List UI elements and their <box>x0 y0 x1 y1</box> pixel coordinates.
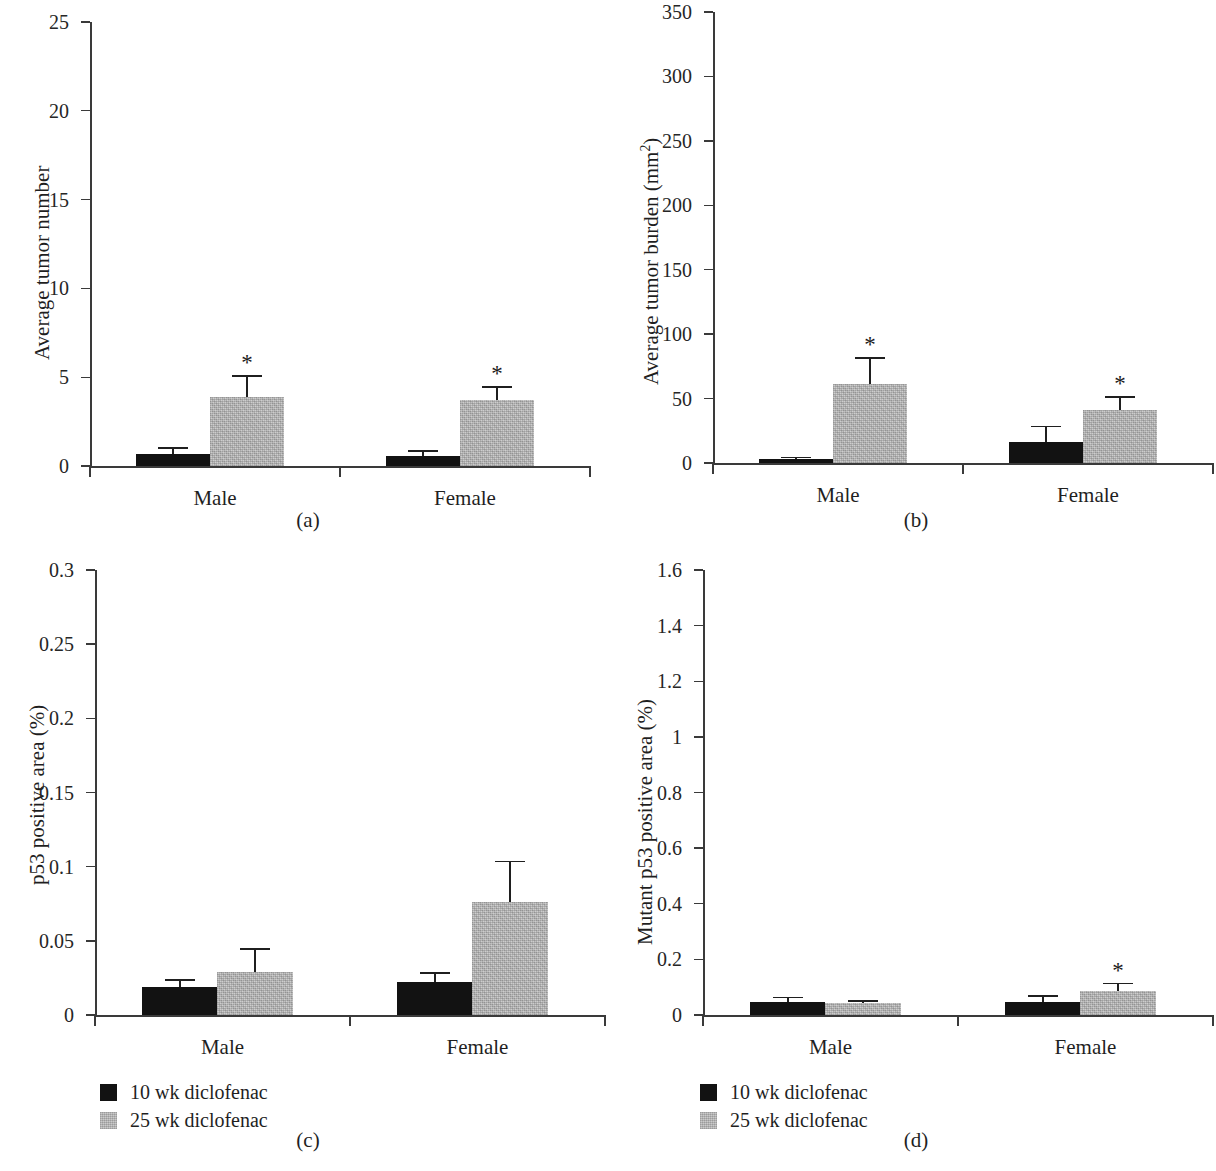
y-tick <box>694 959 703 960</box>
y-tick <box>694 792 703 793</box>
y-tick-label: 1 <box>612 727 682 747</box>
panel-b-plot-area: 050100150200250300350*Male*Female <box>713 12 1213 463</box>
y-tick <box>694 736 703 737</box>
error-bar-stem <box>246 375 248 396</box>
error-bar-cap <box>408 450 438 452</box>
panel-b: Average tumor burden (mm2) 0501001502002… <box>608 0 1216 545</box>
bar-male-10wk <box>759 459 833 463</box>
error-bar-cap <box>495 861 525 863</box>
error-bar-cap <box>781 457 811 459</box>
bar-male-10wk <box>142 987 217 1015</box>
y-tick <box>81 199 90 200</box>
error-bar-female-25wk <box>460 386 534 400</box>
legend-swatch-25wk <box>700 1112 717 1129</box>
y-tick-label: 15 <box>5 190 69 210</box>
legend-swatch-25wk <box>100 1112 117 1129</box>
legend-item-25wk: 25 wk diclofenac <box>700 1106 868 1134</box>
x-tick <box>957 1015 958 1026</box>
bar-female-25wk <box>1080 991 1155 1015</box>
error-bar-male-25wk <box>833 357 907 384</box>
y-tick <box>694 903 703 904</box>
bar-female-25wk <box>1083 410 1157 463</box>
bar-female-10wk <box>1005 1002 1080 1015</box>
error-bar-male-25wk <box>210 375 284 396</box>
b-y-axis-line <box>713 12 715 464</box>
legend-item-10wk: 10 wk diclofenac <box>700 1078 868 1106</box>
error-bar-male-10wk <box>759 457 833 460</box>
error-bar-cap <box>240 948 270 950</box>
y-tick <box>694 569 703 570</box>
y-tick <box>81 21 90 22</box>
bar-female-10wk <box>397 982 472 1015</box>
legend-label-10wk: 10 wk diclofenac <box>130 1081 268 1104</box>
error-bar-female-10wk <box>1005 995 1080 1001</box>
panel-d-plot-area: 00.20.40.60.811.21.41.6Male*Female <box>703 570 1213 1015</box>
legend-swatch-10wk <box>700 1084 717 1101</box>
error-bar-cap <box>1103 983 1133 985</box>
y-tick-label: 0.1 <box>0 857 74 877</box>
error-bar-cap <box>1105 396 1135 398</box>
panel-a: Average tumor number 0510152025*Male*Fem… <box>0 0 608 545</box>
x-tick <box>349 1015 350 1026</box>
error-bar-cap <box>232 375 262 377</box>
y-tick-label: 25 <box>5 12 69 32</box>
legend-label-10wk: 10 wk diclofenac <box>730 1081 868 1104</box>
bar-male-10wk <box>750 1002 825 1015</box>
significance-star: * <box>1080 959 1155 982</box>
y-tick-label: 250 <box>620 131 692 151</box>
x-tick <box>94 1015 95 1026</box>
y-tick <box>694 625 703 626</box>
error-bar-cap <box>158 447 188 449</box>
error-bar-cap <box>482 386 512 388</box>
y-tick <box>704 398 713 399</box>
y-tick-label: 0 <box>5 456 69 476</box>
c-legend: 10 wk diclofenac25 wk diclofenac <box>100 1078 268 1134</box>
error-bar-stem <box>496 386 498 400</box>
bar-female-10wk <box>1009 442 1083 463</box>
bar-male-10wk <box>136 454 210 466</box>
a-y-axis-line <box>90 22 92 467</box>
y-tick <box>704 11 713 12</box>
y-tick <box>81 110 90 111</box>
y-tick-label: 50 <box>620 389 692 409</box>
error-bar-female-25wk <box>1083 396 1157 410</box>
panel-c-plot-area: 00.050.10.150.20.250.3MaleFemale <box>95 570 605 1015</box>
y-tick <box>704 269 713 270</box>
x-tick <box>712 463 713 474</box>
y-tick <box>694 847 703 848</box>
x-tick <box>604 1015 605 1026</box>
y-tick-label: 0.25 <box>0 634 74 654</box>
error-bar-female-25wk <box>472 861 547 903</box>
y-tick-label: 1.4 <box>612 616 682 636</box>
error-bar-male-25wk <box>825 1000 900 1003</box>
x-category-label-female: Female <box>1018 483 1158 508</box>
y-tick-label: 5 <box>5 367 69 387</box>
y-tick-label: 150 <box>620 260 692 280</box>
bar-female-10wk <box>386 456 460 466</box>
panel-caption-d: (d) <box>866 1128 966 1153</box>
error-bar-stem <box>254 948 256 972</box>
y-tick <box>81 288 90 289</box>
y-tick-label: 0.15 <box>0 783 74 803</box>
y-tick-label: 100 <box>620 324 692 344</box>
bar-male-25wk <box>833 384 907 463</box>
x-tick <box>589 466 590 477</box>
panel-a-plot-area: 0510152025*Male*Female <box>90 22 590 466</box>
y-tick <box>86 866 95 867</box>
error-bar-female-10wk <box>1009 426 1083 443</box>
x-category-label-male: Male <box>153 1035 293 1060</box>
y-tick-label: 0.8 <box>612 783 682 803</box>
y-tick-label: 0.6 <box>612 838 682 858</box>
y-tick <box>86 569 95 570</box>
error-bar-cap <box>165 979 195 981</box>
x-tick <box>962 463 963 474</box>
error-bar-male-10wk <box>136 447 210 453</box>
significance-star: * <box>460 362 534 385</box>
y-tick-label: 0 <box>620 453 692 473</box>
legend-swatch-10wk <box>100 1084 117 1101</box>
x-tick <box>1212 463 1213 474</box>
y-tick <box>86 940 95 941</box>
panel-c: p53 positive area (%) 00.050.10.150.20.2… <box>0 545 608 1171</box>
c-y-axis-line <box>95 570 97 1016</box>
y-tick <box>81 377 90 378</box>
